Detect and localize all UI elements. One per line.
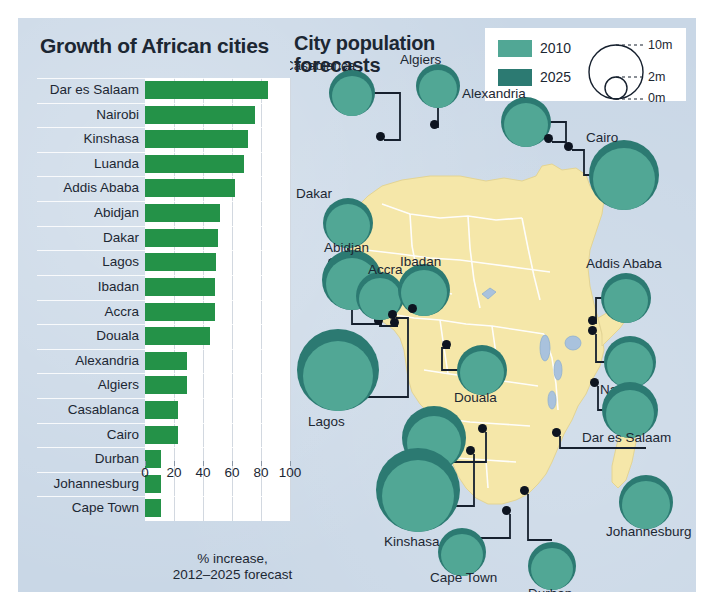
- row-separator: [37, 201, 290, 202]
- bar-chart-row: Douala: [145, 324, 290, 349]
- legend-swatch-2010: [498, 40, 532, 57]
- bar: [145, 499, 161, 517]
- city-bubble-2010[interactable]: [593, 148, 655, 210]
- city-location-dot[interactable]: [442, 340, 451, 349]
- city-label: Alexandria: [462, 86, 526, 101]
- city-label: Douala: [454, 390, 497, 405]
- bar-chart-row: Casablanca: [145, 398, 290, 423]
- bar-chart-row: Dakar: [145, 226, 290, 251]
- bar: [145, 278, 215, 296]
- city-location-dot[interactable]: [390, 318, 399, 327]
- city-bubble-2010[interactable]: [460, 351, 504, 395]
- row-separator: [37, 398, 290, 399]
- city-location-dot[interactable]: [408, 304, 417, 313]
- legend-label-2010: 2010: [540, 40, 571, 56]
- row-separator: [37, 373, 290, 374]
- x-tick-label: 60: [224, 465, 239, 480]
- bar-category-label: Algiers: [98, 375, 139, 395]
- bar-chart-row: Lagos: [145, 250, 290, 275]
- row-separator: [37, 496, 290, 497]
- row-separator: [37, 349, 290, 350]
- bar: [145, 253, 216, 271]
- city-location-dot[interactable]: [590, 378, 599, 387]
- row-separator: [37, 103, 290, 104]
- city-location-dot[interactable]: [376, 132, 385, 141]
- bar: [145, 376, 187, 394]
- bar-category-label: Casablanca: [68, 400, 139, 420]
- bar-chart-plot-area: Dar es SalaamNairobiKinshasaLuandaAddis …: [145, 78, 290, 521]
- row-separator: [37, 250, 290, 251]
- city-label: Dar es Salaam: [582, 430, 671, 445]
- city-location-dot[interactable]: [588, 316, 597, 325]
- city-label: Johannesburg: [606, 524, 692, 539]
- x-tick-label: 20: [166, 465, 181, 480]
- bar-chart-row: Dar es Salaam: [145, 78, 290, 103]
- city-location-dot[interactable]: [430, 120, 439, 129]
- bar-chart-row: Addis Ababa: [145, 176, 290, 201]
- city-bubble-2010[interactable]: [622, 481, 670, 529]
- city-location-dot[interactable]: [564, 142, 573, 151]
- bar-chart-row: Ibadan: [145, 275, 290, 300]
- bar-category-label: Accra: [104, 302, 139, 322]
- bar-category-label: Dakar: [103, 228, 139, 248]
- bar-chart-row: Accra: [145, 300, 290, 325]
- city-location-dot[interactable]: [520, 486, 529, 495]
- city-location-dot[interactable]: [544, 134, 553, 143]
- x-tick-label: 40: [195, 465, 210, 480]
- city-label: Lagos: [308, 414, 345, 429]
- city-bubble-2010[interactable]: [419, 70, 457, 108]
- bar: [145, 426, 178, 444]
- city-bubble-2010[interactable]: [504, 103, 548, 147]
- bar: [145, 81, 268, 99]
- row-separator: [37, 472, 290, 473]
- bar: [145, 327, 210, 345]
- city-bubble-2010[interactable]: [382, 460, 454, 532]
- legend-scale-10m: 10m: [648, 38, 672, 52]
- africa-landmass: [346, 164, 604, 504]
- city-bubble-2010[interactable]: [531, 548, 573, 590]
- bar: [145, 106, 255, 124]
- bar-category-label: Cape Town: [72, 498, 139, 518]
- bar-category-label: Dar es Salaam: [50, 80, 139, 100]
- row-separator: [37, 300, 290, 301]
- city-label: Casablanca: [290, 58, 355, 73]
- bar-chart-row: Cape Town: [145, 496, 290, 521]
- city-label: Cape Town: [430, 570, 497, 585]
- city-location-dot[interactable]: [388, 310, 397, 319]
- bar-category-label: Lagos: [102, 252, 139, 272]
- x-tick-label: 0: [141, 465, 149, 480]
- city-location-dot[interactable]: [552, 428, 561, 437]
- bar-category-label: Luanda: [94, 154, 139, 174]
- bar: [145, 401, 178, 419]
- city-label: Dakar: [296, 186, 332, 201]
- bar: [145, 130, 248, 148]
- x-tick-label: 80: [253, 465, 268, 480]
- bar-chart-row: Algiers: [145, 373, 290, 398]
- bar-category-label: Kinshasa: [83, 129, 139, 149]
- city-location-dot[interactable]: [478, 424, 487, 433]
- chart-title: Growth of African cities: [40, 34, 300, 58]
- city-label: Durban: [528, 586, 572, 592]
- bar-category-label: Alexandria: [75, 351, 139, 371]
- legend-scale-2m: 2m: [648, 70, 665, 84]
- legend-label-2025: 2025: [540, 69, 571, 85]
- bar-category-label: Johannesburg: [53, 474, 139, 494]
- infographic-root: Growth of African cities Dar es SalaamNa…: [0, 0, 714, 611]
- bar-chart-row: Nairobi: [145, 103, 290, 128]
- row-separator: [37, 275, 290, 276]
- city-label: Accra: [368, 262, 403, 277]
- city-bubble-2010[interactable]: [303, 341, 373, 411]
- city-location-dot[interactable]: [502, 506, 511, 515]
- city-location-dot[interactable]: [588, 326, 597, 335]
- city-bubble-2010[interactable]: [604, 279, 648, 323]
- row-separator: [37, 324, 290, 325]
- bar-category-label: Addis Ababa: [63, 178, 139, 198]
- row-separator: [37, 423, 290, 424]
- city-bubble-2010[interactable]: [332, 76, 372, 116]
- bar-chart-row: Alexandria: [145, 349, 290, 374]
- city-label: Ibadan: [400, 254, 441, 269]
- bar: [145, 179, 235, 197]
- map-title-line-1: City population: [294, 32, 484, 54]
- row-separator: [37, 226, 290, 227]
- city-location-dot[interactable]: [466, 446, 475, 455]
